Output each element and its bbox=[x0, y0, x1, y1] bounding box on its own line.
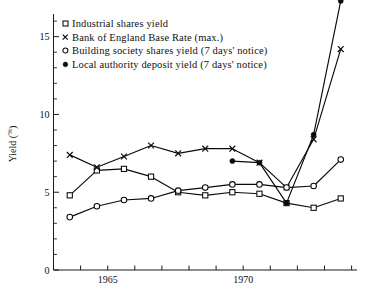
data-point-marker bbox=[311, 183, 317, 189]
data-point-marker bbox=[311, 132, 316, 137]
legend-item-label: Local authority deposit yield (7 days' n… bbox=[72, 59, 267, 70]
legend-item: Building society shares yield (7 days' n… bbox=[58, 44, 308, 58]
x-tick-label: 1965 bbox=[98, 274, 118, 285]
legend-item: Local authority deposit yield (7 days' n… bbox=[58, 58, 308, 72]
data-point-marker bbox=[338, 157, 344, 163]
legend-item: Industrial shares yield bbox=[58, 17, 308, 31]
open-square-icon bbox=[58, 19, 72, 28]
legend-item-label: Bank of England Base Rate (max.) bbox=[72, 32, 223, 43]
filled-circle-icon bbox=[58, 60, 72, 69]
y-tick-label: 0 bbox=[45, 265, 50, 276]
legend-item-label: Industrial shares yield bbox=[72, 18, 168, 29]
legend-item: Bank of England Base Rate (max.) bbox=[58, 31, 308, 45]
data-point-marker bbox=[148, 196, 154, 202]
x-tick-label: 1970 bbox=[233, 274, 253, 285]
data-point-marker bbox=[257, 160, 262, 165]
data-point-marker bbox=[284, 201, 289, 206]
data-point-marker bbox=[257, 191, 262, 196]
chart-legend: Industrial shares yield Bank of England … bbox=[58, 17, 308, 71]
data-point-marker bbox=[67, 214, 73, 220]
data-point-marker bbox=[175, 188, 181, 194]
data-point-marker bbox=[203, 193, 208, 198]
open-circle-icon bbox=[58, 46, 72, 55]
data-point-marker bbox=[67, 193, 72, 198]
data-point-marker bbox=[311, 205, 316, 210]
legend-item-label: Building society shares yield (7 days' n… bbox=[72, 45, 267, 56]
data-point-marker bbox=[284, 185, 290, 191]
y-axis-title-text: Yield (%) bbox=[6, 126, 19, 163]
data-point-marker bbox=[230, 190, 235, 195]
data-point-marker bbox=[148, 174, 153, 179]
data-point-marker bbox=[338, 0, 343, 3]
data-point-marker bbox=[121, 166, 126, 171]
data-point-marker bbox=[338, 46, 344, 52]
y-axis-title: Yield (%) bbox=[6, 126, 19, 163]
data-point-marker bbox=[202, 185, 208, 191]
data-point-marker bbox=[230, 182, 236, 188]
y-tick-label: 10 bbox=[40, 109, 50, 120]
data-point-marker bbox=[230, 159, 235, 164]
cross-icon bbox=[58, 33, 72, 42]
series-2 bbox=[67, 157, 344, 220]
y-tick-label: 15 bbox=[40, 31, 50, 42]
chart-container: 05101519651970 Yield (%) Industrial shar… bbox=[0, 0, 375, 291]
data-point-marker bbox=[121, 197, 127, 203]
data-point-marker bbox=[257, 182, 263, 188]
y-tick-label: 5 bbox=[45, 187, 50, 198]
data-point-marker bbox=[94, 203, 100, 209]
data-point-marker bbox=[121, 154, 127, 160]
data-point-marker bbox=[338, 196, 343, 201]
data-point-marker bbox=[67, 152, 73, 158]
